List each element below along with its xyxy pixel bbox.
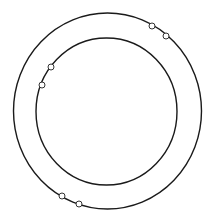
concentric-rings-diagram <box>0 0 215 218</box>
ring-nodes <box>39 23 169 207</box>
inner-ring-node-3 <box>48 64 54 70</box>
outer-ring <box>14 13 202 209</box>
inner-ring <box>36 38 177 185</box>
outer-ring-node-1 <box>149 23 155 29</box>
outer-ring-node-6 <box>76 201 82 207</box>
outer-ring-node-2 <box>163 33 169 39</box>
outer-ring-node-5 <box>59 193 65 199</box>
inner-ring-node-4 <box>39 82 45 88</box>
